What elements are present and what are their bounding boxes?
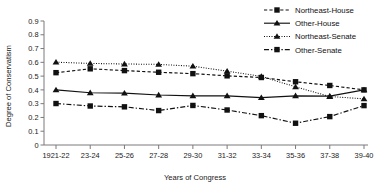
y-axis-title: Degree of Conservatism xyxy=(4,45,13,127)
series-northeast-senate xyxy=(53,59,368,101)
y-tick-label: 0.9 xyxy=(28,17,38,26)
legend-item-other-house[interactable]: Other-House xyxy=(264,19,340,28)
x-tick-label: 23-24 xyxy=(81,151,100,160)
data-point-marker xyxy=(292,84,299,90)
x-tick-label: 31-32 xyxy=(218,151,237,160)
data-point-marker xyxy=(361,103,366,108)
x-tick-label: 39-40 xyxy=(355,151,374,160)
data-point-marker xyxy=(224,68,231,74)
x-tick-label: 33-34 xyxy=(252,151,271,160)
legend-label: Other-Senate xyxy=(295,46,342,55)
y-tick-label: 0.3 xyxy=(28,99,38,108)
y-tick-label: 0.1 xyxy=(28,127,38,136)
data-point-marker xyxy=(87,60,94,66)
y-tick-label: 0.5 xyxy=(28,72,38,81)
series-line xyxy=(56,69,364,90)
legend-item-northeast-senate[interactable]: Northeast-Senate xyxy=(264,32,356,41)
conservatism-line-chart: Northeast-HouseOther-HouseNortheast-Sena… xyxy=(0,0,376,186)
legend-label: Northeast-Senate xyxy=(295,32,356,41)
x-axis: 1921-2223-2425-2627-2829-3031-3233-3435-… xyxy=(42,145,373,160)
x-tick-label: 37-38 xyxy=(320,151,339,160)
legend-label: Other-House xyxy=(295,19,340,28)
data-point-marker xyxy=(361,96,368,102)
data-point-marker xyxy=(156,70,161,75)
x-tick-label: 1921-22 xyxy=(42,151,69,160)
y-tick-label: 0.4 xyxy=(28,86,38,95)
x-tick-label: 25-26 xyxy=(115,151,134,160)
data-point-marker xyxy=(293,79,298,84)
series-northeast-house xyxy=(53,66,366,92)
y-axis: 00.10.20.30.40.50.60.70.80.9 xyxy=(28,17,44,150)
data-point-marker xyxy=(190,71,195,76)
data-point-marker xyxy=(88,103,93,108)
series-line xyxy=(56,90,364,98)
series-other-house xyxy=(53,87,368,100)
data-point-marker xyxy=(259,113,264,118)
data-point-marker xyxy=(53,101,58,106)
data-point-marker xyxy=(88,66,93,71)
data-point-marker xyxy=(327,83,332,88)
x-tick-label: 29-30 xyxy=(183,151,202,160)
y-tick-label: 0.8 xyxy=(28,30,38,39)
legend-item-northeast-house[interactable]: Northeast-House xyxy=(264,6,354,15)
legend-item-other-senate[interactable]: Other-Senate xyxy=(264,46,342,55)
series-line xyxy=(56,104,364,124)
x-axis-title: Years of Congress xyxy=(164,173,226,182)
data-point-marker xyxy=(53,87,60,93)
chart-legend: Northeast-HouseOther-HouseNortheast-Sena… xyxy=(264,6,356,55)
data-point-marker xyxy=(224,107,229,112)
data-point-marker xyxy=(189,63,196,69)
data-point-marker xyxy=(224,73,229,78)
data-point-marker xyxy=(156,108,161,113)
y-tick-label: 0 xyxy=(34,141,38,150)
data-point-marker xyxy=(53,59,60,65)
y-tick-label: 0.7 xyxy=(28,44,38,53)
data-point-marker xyxy=(122,68,127,73)
y-tick-label: 0.2 xyxy=(28,113,38,122)
x-tick-label: 27-28 xyxy=(149,151,168,160)
series-plot-area xyxy=(53,59,368,126)
chart-container: Northeast-HouseOther-HouseNortheast-Sena… xyxy=(0,0,376,186)
legend-label: Northeast-House xyxy=(295,6,354,15)
series-other-senate xyxy=(53,101,366,126)
y-tick-label: 0.6 xyxy=(28,58,38,67)
data-point-marker xyxy=(274,7,279,12)
data-point-marker xyxy=(53,70,58,75)
data-point-marker xyxy=(327,114,332,119)
data-point-marker xyxy=(274,47,279,52)
data-point-marker xyxy=(122,104,127,109)
data-point-marker xyxy=(190,103,195,108)
x-tick-label: 35-36 xyxy=(286,151,305,160)
data-point-marker xyxy=(293,121,298,126)
